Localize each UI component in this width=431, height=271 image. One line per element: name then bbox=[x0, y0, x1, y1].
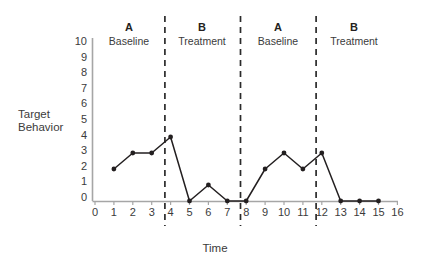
data-point bbox=[357, 199, 362, 204]
x-axis-title: Time bbox=[202, 242, 227, 254]
data-point bbox=[168, 135, 173, 140]
y-tick-8: 8 bbox=[81, 66, 87, 78]
x-tick-4: 4 bbox=[168, 206, 174, 218]
y-tick-3: 3 bbox=[81, 144, 87, 156]
x-tick-2: 2 bbox=[130, 206, 136, 218]
data-point bbox=[130, 151, 135, 156]
x-tick-13: 13 bbox=[335, 206, 347, 218]
y-tick-0: 0 bbox=[81, 191, 87, 203]
x-tick-8: 8 bbox=[243, 206, 249, 218]
x-tick-14: 14 bbox=[353, 206, 365, 218]
x-tick-0: 0 bbox=[92, 206, 98, 218]
phase-letter-a1: A bbox=[125, 21, 133, 33]
phase-name-b2: Treatment bbox=[330, 35, 378, 47]
y-tick-4: 4 bbox=[81, 129, 87, 141]
x-tick-5: 5 bbox=[186, 206, 192, 218]
y-tick-9: 9 bbox=[81, 51, 87, 63]
data-point bbox=[338, 199, 343, 204]
phase-letter-b1: B bbox=[198, 21, 206, 33]
y-tick-7: 7 bbox=[81, 82, 87, 94]
data-point bbox=[263, 167, 268, 172]
x-tick-12: 12 bbox=[316, 206, 328, 218]
y-axis-title-line2: Behavior bbox=[18, 121, 64, 133]
y-tick-5: 5 bbox=[81, 113, 87, 125]
y-tick-2: 2 bbox=[81, 160, 87, 172]
data-point bbox=[319, 151, 324, 156]
data-point bbox=[376, 199, 381, 204]
phase-letter-a2: A bbox=[274, 21, 282, 33]
x-tick-7: 7 bbox=[224, 206, 230, 218]
y-tick-1: 1 bbox=[81, 175, 87, 187]
phase-name-b1: Treatment bbox=[178, 35, 226, 47]
data-point bbox=[244, 199, 249, 204]
chart-container: Target Behavior Time 10 9 8 7 6 5 4 3 2 … bbox=[0, 0, 431, 271]
x-tick-9: 9 bbox=[262, 206, 268, 218]
x-tick-6: 6 bbox=[205, 206, 211, 218]
x-tick-11: 11 bbox=[297, 206, 308, 218]
data-point bbox=[187, 199, 192, 204]
data-point bbox=[225, 199, 230, 204]
x-tick-16: 16 bbox=[391, 206, 403, 218]
y-axis-title-line1: Target bbox=[18, 108, 51, 120]
x-tick-3: 3 bbox=[149, 206, 155, 218]
y-tick-6: 6 bbox=[81, 97, 87, 109]
x-tick-1: 1 bbox=[111, 206, 117, 218]
data-point bbox=[149, 151, 154, 156]
x-tick-10: 10 bbox=[278, 206, 290, 218]
y-tick-10: 10 bbox=[75, 35, 87, 47]
data-point bbox=[301, 167, 306, 172]
phase-name-a2: Baseline bbox=[258, 35, 298, 47]
abab-reversal-line-chart: Target Behavior Time 10 9 8 7 6 5 4 3 2 … bbox=[0, 0, 431, 271]
phase-letter-b2: B bbox=[350, 21, 358, 33]
data-point bbox=[112, 167, 117, 172]
data-point bbox=[282, 151, 287, 156]
data-point bbox=[206, 183, 211, 188]
phase-name-a1: Baseline bbox=[109, 35, 149, 47]
x-tick-15: 15 bbox=[372, 206, 384, 218]
